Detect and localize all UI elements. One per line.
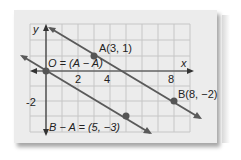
- label-point-a: A(3, 1): [99, 43, 132, 54]
- x-arrow-left-icon: [30, 68, 37, 74]
- x-axis-label: x: [181, 58, 187, 69]
- label-b-minus-a: B − A = (5, −3): [49, 122, 120, 133]
- label-origin: O = (A − A): [48, 58, 103, 69]
- label-point-b: B(8, −2): [178, 89, 217, 100]
- x-tick-8: 8: [168, 74, 174, 85]
- point-b-minus-a: [123, 113, 130, 120]
- y-tick-neg2: -2: [26, 97, 36, 108]
- x-tick-4: 4: [104, 74, 110, 85]
- line-origin-arrow-start-icon: [20, 55, 28, 61]
- y-axis-label: y: [33, 24, 39, 35]
- y-arrow-icon: [43, 24, 49, 31]
- line-ab-arrow-start-icon: [48, 27, 56, 33]
- x-tick-2: 2: [75, 74, 81, 85]
- point-b: [171, 98, 178, 105]
